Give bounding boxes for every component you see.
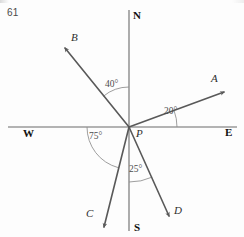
point-label-b: B [71, 32, 78, 43]
cardinal-label-east: E [225, 127, 232, 138]
point-label-d: D [174, 205, 182, 216]
compass-diagram-canvas [0, 0, 244, 237]
axis-group [8, 10, 237, 231]
angle-label-npb: 40° [105, 80, 118, 90]
compass-diagram: 61 N [0, 0, 244, 237]
point-label-p: P [136, 128, 143, 139]
point-label-a: A [211, 73, 218, 84]
point-label-c: C [86, 208, 93, 219]
cardinal-label-south: S [134, 222, 140, 233]
angle-label-epa: 20° [164, 107, 177, 117]
ray-PC [104, 127, 129, 227]
angle-label-spd: 25° [129, 165, 142, 175]
angle-label-wpc: 75° [89, 132, 102, 142]
arc-angle-SPD [129, 177, 152, 182]
ray-PB [65, 48, 129, 127]
cardinal-label-west: W [23, 128, 34, 139]
cardinal-label-north: N [133, 10, 141, 21]
